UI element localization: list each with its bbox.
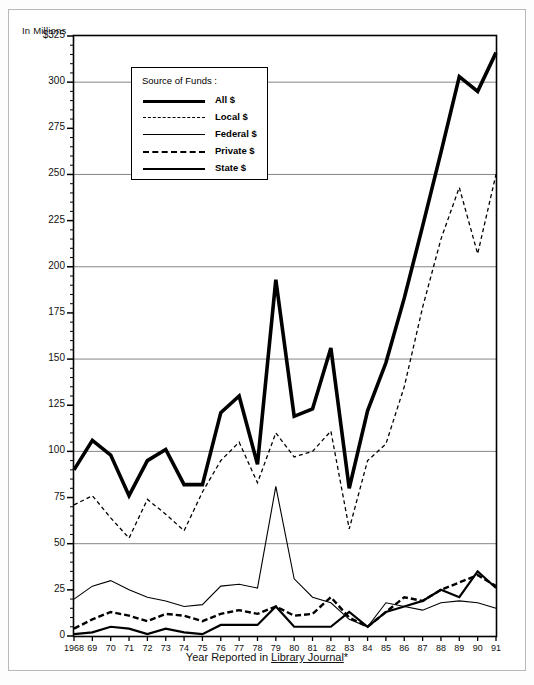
- chart-page: In Millions 0255075100125150175200225250…: [0, 0, 534, 685]
- y-axis-tick-label: 250: [19, 167, 65, 178]
- y-axis-tick-label: $325: [19, 29, 65, 40]
- legend-label-local: Local $: [215, 111, 248, 122]
- y-axis-tick-label: 225: [19, 214, 65, 225]
- series-line-federal: [74, 486, 496, 626]
- y-axis-tick-label: 275: [19, 121, 65, 132]
- legend-item-all[interactable]: All $: [132, 93, 267, 110]
- legend: Source of Funds : All $Local $Federal $P…: [131, 67, 268, 180]
- x-axis-title-journal: Library Journal: [271, 651, 344, 663]
- y-axis-tick-label: 200: [19, 260, 65, 271]
- series-line-state: [74, 571, 496, 634]
- y-axis-tick-label: 0: [19, 629, 65, 640]
- y-axis-tick-label: 100: [19, 444, 65, 455]
- legend-label-federal: Federal $: [215, 128, 257, 139]
- legend-title: Source of Funds :: [142, 75, 217, 86]
- y-axis-tick-label: 50: [19, 537, 65, 548]
- y-axis-tick-label: 150: [19, 352, 65, 363]
- y-axis-tick-label: 25: [19, 583, 65, 594]
- x-axis-title-prefix: Year Reported in: [186, 651, 271, 663]
- legend-label-private: Private $: [215, 145, 255, 156]
- series-line-private: [74, 575, 496, 629]
- y-axis-tick-label: 175: [19, 306, 65, 317]
- y-axis-tick-label: 75: [19, 491, 65, 502]
- y-axis-tick-label: 300: [19, 75, 65, 86]
- x-axis-title-suffix: *: [344, 651, 348, 663]
- legend-swatch-state: [143, 168, 205, 170]
- legend-swatch-federal: [143, 134, 205, 135]
- legend-item-state[interactable]: State $: [132, 161, 267, 178]
- legend-item-private[interactable]: Private $: [132, 144, 267, 161]
- x-axis-title: Year Reported in Library Journal*: [0, 651, 534, 663]
- legend-swatch-all: [143, 100, 205, 103]
- legend-swatch-private: [143, 151, 205, 153]
- legend-item-federal[interactable]: Federal $: [132, 127, 267, 144]
- legend-label-state: State $: [215, 162, 246, 173]
- legend-label-all: All $: [215, 94, 235, 105]
- legend-swatch-local: [143, 117, 205, 118]
- y-axis-tick-label: 125: [19, 398, 65, 409]
- legend-item-local[interactable]: Local $: [132, 110, 267, 127]
